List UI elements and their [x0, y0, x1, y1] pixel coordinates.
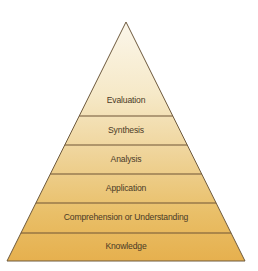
- layer-label-comprehension: Comprehension or Understanding: [64, 212, 189, 222]
- layer-label-evaluation: Evaluation: [107, 95, 146, 105]
- pyramid-diagram: Evaluation Synthesis Analysis Applicatio…: [0, 0, 258, 271]
- layer-label-application: Application: [106, 183, 147, 193]
- layer-label-knowledge: Knowledge: [105, 241, 147, 251]
- layer-label-synthesis: Synthesis: [108, 125, 144, 135]
- layer-label-analysis: Analysis: [111, 154, 142, 164]
- pyramid-fill: [7, 22, 245, 261]
